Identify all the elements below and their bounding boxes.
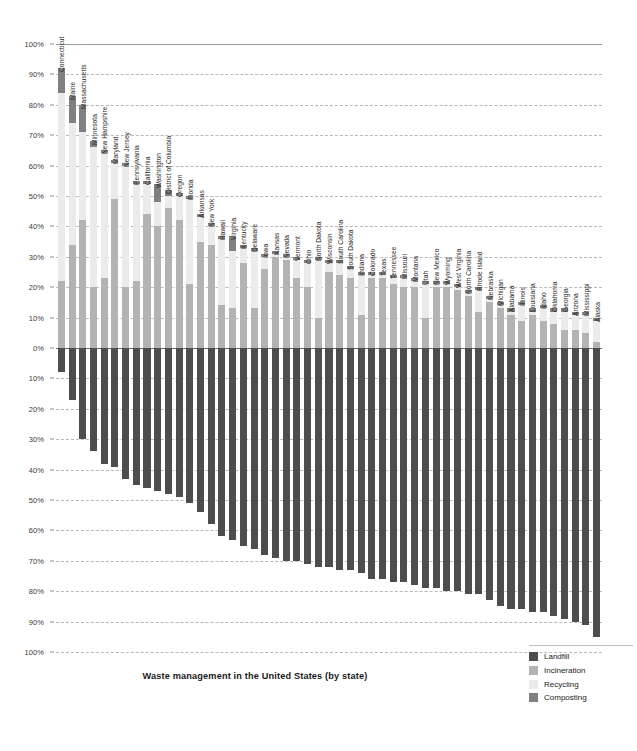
category-label: North Carolina <box>465 251 472 294</box>
bar-column[interactable] <box>143 44 150 652</box>
bar-segment-landfill <box>561 348 568 619</box>
category-label: South Dakota <box>347 229 354 270</box>
y-axis-tick-mark <box>50 348 54 349</box>
bar-segment-landfill <box>433 348 440 588</box>
bar-column[interactable] <box>218 44 225 652</box>
bar-column[interactable] <box>529 44 536 652</box>
bar-segment-landfill <box>208 348 215 524</box>
bar-column[interactable] <box>261 44 268 652</box>
bar-column[interactable] <box>411 44 418 652</box>
category-label: New Jersey <box>123 132 130 167</box>
bar-column[interactable] <box>465 44 472 652</box>
bar-column[interactable] <box>315 44 322 652</box>
bar-segment-incineration <box>325 272 332 348</box>
bar-column[interactable] <box>540 44 547 652</box>
bar-segment-landfill <box>251 348 258 549</box>
bar-segment-recycling <box>90 147 97 287</box>
y-axis-tick-label: 40% <box>29 222 44 231</box>
legend-item-landfill[interactable]: Landfill <box>529 652 633 661</box>
y-axis-tick-label: 60% <box>29 526 44 535</box>
category-label: Wisconsin <box>326 233 333 264</box>
bar-segment-recycling <box>58 93 65 281</box>
bar-column[interactable] <box>133 44 140 652</box>
bar-column[interactable] <box>497 44 504 652</box>
bar-column[interactable] <box>69 44 76 652</box>
bar-column[interactable] <box>572 44 579 652</box>
bar-column[interactable] <box>304 44 311 652</box>
legend-item-incineration[interactable]: Incineration <box>529 666 633 675</box>
bar-column[interactable] <box>422 44 429 652</box>
bar-column[interactable] <box>433 44 440 652</box>
bar-segment-incineration <box>411 287 418 348</box>
bar-column[interactable] <box>272 44 279 652</box>
bar-segment-landfill <box>368 348 375 579</box>
bar-column[interactable] <box>186 44 193 652</box>
category-label: Virginia <box>230 217 237 239</box>
bar-column[interactable] <box>197 44 204 652</box>
bar-column[interactable] <box>518 44 525 652</box>
bar-column[interactable] <box>379 44 386 652</box>
bar-column[interactable] <box>454 44 461 652</box>
bar-column[interactable] <box>582 44 589 652</box>
bar-segment-recycling <box>240 248 247 263</box>
bar-segment-incineration <box>79 220 86 348</box>
bar-segment-landfill <box>154 348 161 491</box>
bar-segment-incineration <box>540 321 547 348</box>
legend-swatch-recycling <box>529 680 538 689</box>
category-label: Texas <box>380 259 387 276</box>
bar-segment-incineration <box>347 278 354 348</box>
bar-column[interactable] <box>229 44 236 652</box>
legend-item-composting[interactable]: Composting <box>529 693 633 702</box>
bar-column[interactable] <box>507 44 514 652</box>
bar-column[interactable] <box>443 44 450 652</box>
y-axis-tick-label: 90% <box>29 70 44 79</box>
bar-segment-recycling <box>176 196 183 220</box>
legend-label: Landfill <box>544 652 569 661</box>
bar-segment-incineration <box>486 302 493 348</box>
bar-segment-landfill <box>358 348 365 573</box>
legend-label: Incineration <box>544 666 585 675</box>
bar-segment-recycling <box>572 315 579 330</box>
bar-segment-incineration <box>443 287 450 348</box>
bar-column[interactable] <box>390 44 397 652</box>
bar-segment-landfill <box>582 348 589 625</box>
category-label: Kansas <box>273 232 280 254</box>
bar-column[interactable] <box>550 44 557 652</box>
bar-column[interactable] <box>368 44 375 652</box>
bar-segment-landfill <box>518 348 525 609</box>
y-axis-tick-label: 50% <box>29 192 44 201</box>
bar-column[interactable] <box>176 44 183 652</box>
bar-column[interactable] <box>325 44 332 652</box>
bar-segment-incineration <box>186 284 193 348</box>
bar-column[interactable] <box>240 44 247 652</box>
bar-column[interactable] <box>79 44 86 652</box>
bar-segment-landfill <box>443 348 450 591</box>
y-axis-tick-label: 70% <box>29 556 44 565</box>
bar-column[interactable] <box>293 44 300 652</box>
bar-column[interactable] <box>593 44 600 652</box>
legend-item-recycling[interactable]: Recycling <box>529 680 633 689</box>
bar-segment-landfill <box>593 348 600 637</box>
bar-column[interactable] <box>475 44 482 652</box>
bar-segment-recycling <box>593 321 600 342</box>
bar-column[interactable] <box>208 44 215 652</box>
bar-column[interactable] <box>561 44 568 652</box>
bar-column[interactable] <box>283 44 290 652</box>
bar-column[interactable] <box>58 44 65 652</box>
bar-column[interactable] <box>336 44 343 652</box>
bar-column[interactable] <box>347 44 354 652</box>
y-axis-tick-mark <box>50 560 54 561</box>
bar-segment-incineration <box>390 284 397 348</box>
bar-column[interactable] <box>154 44 161 652</box>
bar-column[interactable] <box>486 44 493 652</box>
bar-segment-recycling <box>251 251 258 309</box>
bar-column[interactable] <box>358 44 365 652</box>
bar-segment-incineration <box>582 333 589 348</box>
bar-column[interactable] <box>251 44 258 652</box>
bar-column[interactable] <box>400 44 407 652</box>
bar-segment-incineration <box>197 242 204 348</box>
bar-segment-incineration <box>229 308 236 348</box>
category-label: Illinois <box>519 288 526 307</box>
y-axis-tick-mark <box>50 74 54 75</box>
bar-segment-landfill <box>197 348 204 512</box>
